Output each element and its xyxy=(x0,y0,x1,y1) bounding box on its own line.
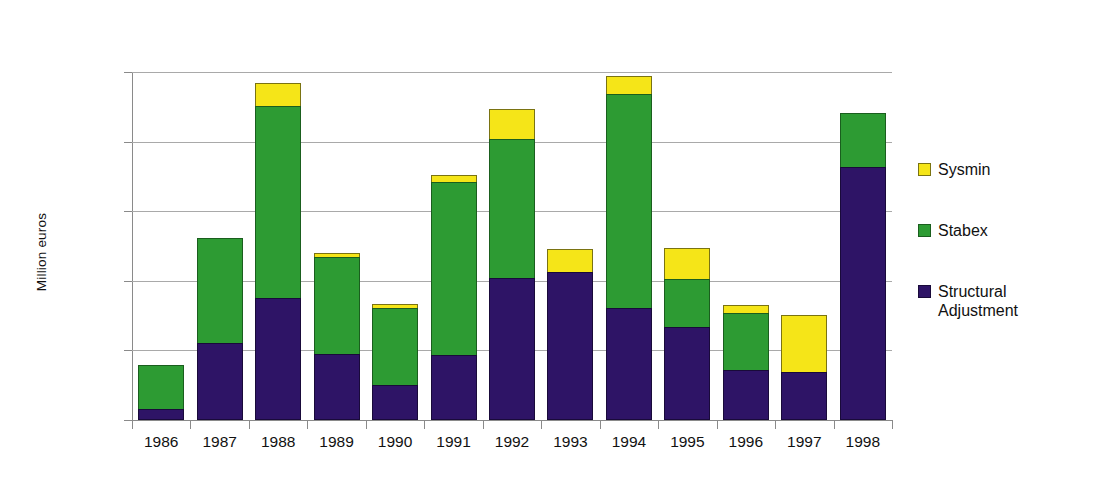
bar-segment-structural[interactable] xyxy=(489,278,535,420)
y-tick-mark xyxy=(124,350,132,351)
x-tick-mark xyxy=(775,420,776,429)
x-tick-label-1996: 1996 xyxy=(729,433,763,451)
legend-label-stabex: Stabex xyxy=(938,221,988,240)
gridline xyxy=(132,72,892,73)
bar-1997[interactable] xyxy=(781,316,827,420)
bar-segment-stabex[interactable] xyxy=(314,257,360,354)
bar-segment-stabex[interactable] xyxy=(255,106,301,299)
bar-segment-structural[interactable] xyxy=(431,355,477,420)
bar-segment-sysmin[interactable] xyxy=(781,315,827,373)
bar-segment-stabex[interactable] xyxy=(664,279,710,328)
bar-segment-structural[interactable] xyxy=(547,272,593,420)
bar-segment-structural[interactable] xyxy=(255,298,301,420)
bar-1993[interactable] xyxy=(547,250,593,420)
x-tick-mark xyxy=(307,420,308,429)
bar-segment-sysmin[interactable] xyxy=(489,109,535,140)
x-tick-mark xyxy=(366,420,367,429)
x-tick-label-1994: 1994 xyxy=(612,433,646,451)
x-tick-label-1993: 1993 xyxy=(553,433,587,451)
y-tick-mark xyxy=(124,142,132,143)
bar-segment-structural[interactable] xyxy=(664,327,710,420)
bar-1989[interactable] xyxy=(314,254,360,420)
bar-segment-stabex[interactable] xyxy=(840,113,886,168)
bar-1988[interactable] xyxy=(255,84,301,420)
bar-segment-stabex[interactable] xyxy=(723,313,769,371)
y-tick-mark xyxy=(124,420,132,421)
x-tick-mark xyxy=(892,420,893,429)
y-tick-mark xyxy=(124,211,132,212)
bar-segment-structural[interactable] xyxy=(138,409,184,420)
bar-segment-structural[interactable] xyxy=(606,308,652,420)
x-tick-mark xyxy=(834,420,835,429)
legend-item-stabex[interactable]: Stabex xyxy=(918,221,1108,240)
x-tick-label-1997: 1997 xyxy=(787,433,821,451)
x-tick-label-1986: 1986 xyxy=(144,433,178,451)
x-tick-mark xyxy=(132,420,133,429)
bar-1996[interactable] xyxy=(723,306,769,420)
x-tick-label-1991: 1991 xyxy=(436,433,470,451)
x-tick-label-1988: 1988 xyxy=(261,433,295,451)
bar-segment-sysmin[interactable] xyxy=(255,83,301,107)
bar-1992[interactable] xyxy=(489,110,535,420)
bar-1990[interactable] xyxy=(372,305,418,420)
plot-area: 02004006008001000 xyxy=(132,72,892,420)
x-tick-mark xyxy=(658,420,659,429)
legend-label-structural: Structural Adjustment xyxy=(938,282,1018,320)
bar-segment-sysmin[interactable] xyxy=(664,248,710,280)
bar-segment-structural[interactable] xyxy=(840,167,886,420)
x-tick-mark xyxy=(483,420,484,429)
x-tick-label-1995: 1995 xyxy=(670,433,704,451)
bar-segment-sysmin[interactable] xyxy=(547,249,593,273)
x-tick-label-1989: 1989 xyxy=(319,433,353,451)
x-tick-label-1990: 1990 xyxy=(378,433,412,451)
chart-legend: SysminStabexStructural Adjustment xyxy=(918,160,1108,362)
bar-1987[interactable] xyxy=(197,239,243,420)
y-tick-mark xyxy=(124,72,132,73)
legend-item-sysmin[interactable]: Sysmin xyxy=(918,160,1108,179)
bar-segment-structural[interactable] xyxy=(197,343,243,420)
x-axis: 1986198719881989199019911992199319941995… xyxy=(132,420,892,460)
x-tick-mark xyxy=(190,420,191,429)
x-tick-label-1987: 1987 xyxy=(202,433,236,451)
legend-label-sysmin: Sysmin xyxy=(938,160,990,179)
bar-segment-structural[interactable] xyxy=(723,370,769,420)
bar-segment-sysmin[interactable] xyxy=(606,76,652,95)
x-tick-mark xyxy=(600,420,601,429)
legend-swatch-sysmin-icon xyxy=(918,163,931,176)
bar-1994[interactable] xyxy=(606,77,652,420)
bar-segment-structural[interactable] xyxy=(314,354,360,420)
legend-swatch-structural-icon xyxy=(918,285,931,298)
stacked-bar-chart: Million euros 02004006008001000 19861987… xyxy=(0,0,1111,490)
x-tick-mark xyxy=(249,420,250,429)
bar-segment-stabex[interactable] xyxy=(431,182,477,356)
bar-1995[interactable] xyxy=(664,249,710,420)
bar-segment-stabex[interactable] xyxy=(197,238,243,343)
legend-item-structural[interactable]: Structural Adjustment xyxy=(918,282,1108,320)
bar-segment-stabex[interactable] xyxy=(489,139,535,279)
legend-swatch-stabex-icon xyxy=(918,224,931,237)
bar-1986[interactable] xyxy=(138,366,184,420)
bar-segment-structural[interactable] xyxy=(372,385,418,420)
bar-segment-stabex[interactable] xyxy=(138,365,184,410)
bar-segment-stabex[interactable] xyxy=(372,308,418,386)
x-tick-label-1998: 1998 xyxy=(846,433,880,451)
y-axis-line xyxy=(132,72,133,420)
bar-segment-stabex[interactable] xyxy=(606,94,652,309)
bar-1991[interactable] xyxy=(431,176,477,420)
x-tick-label-1992: 1992 xyxy=(495,433,529,451)
y-axis-title: Million euros xyxy=(34,182,49,322)
y-tick-mark xyxy=(124,281,132,282)
bar-segment-structural[interactable] xyxy=(781,372,827,420)
bar-1998[interactable] xyxy=(840,114,886,420)
x-tick-mark xyxy=(541,420,542,429)
x-tick-mark xyxy=(717,420,718,429)
x-tick-mark xyxy=(424,420,425,429)
